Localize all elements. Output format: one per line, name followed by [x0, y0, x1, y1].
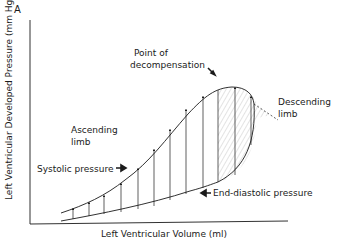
panel-label: A [14, 4, 21, 15]
decompensation-hatched-region [218, 88, 270, 182]
point-of-decompensation-label-line2: decompensation [130, 60, 205, 70]
end-diastolic-pressure-label: End-diastolic pressure [213, 188, 313, 198]
descending-limb-label-line1: Descending [278, 97, 331, 107]
systolic-pressure-label: Systolic pressure [37, 164, 114, 174]
frank-starling-diagram: A Left Ventricular Developed Pressure (m… [0, 0, 341, 247]
x-axis-label: Left Ventricular Volume (ml) [101, 229, 227, 239]
descending-limb-label-line2: limb [278, 109, 298, 119]
ascending-limb-label-line1: Ascending [71, 125, 118, 135]
end-diastolic-pointer-arrow-icon [201, 190, 211, 196]
decompensation-pointer-arrow-icon [208, 68, 215, 75]
ascending-limb-label-line2: limb [71, 137, 91, 147]
point-of-decompensation-label-line1: Point of [134, 48, 169, 58]
x-axis [30, 221, 288, 224]
y-axis-label: Left Ventricular Developed Pressure (mm … [4, 0, 14, 200]
systolic-pointer-arrow-icon [116, 165, 126, 171]
end-diastolic-pressure-curve [61, 182, 218, 221]
